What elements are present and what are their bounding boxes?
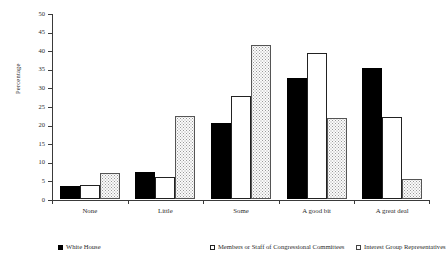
bar: [382, 117, 402, 199]
category-label-0: None: [52, 207, 128, 214]
y-tick-label: 35: [39, 65, 46, 73]
x-axis-line: [52, 200, 430, 201]
x-tick: [52, 200, 53, 204]
y-tick-label: 40: [39, 47, 46, 55]
bar: [231, 96, 251, 199]
bar: [175, 116, 195, 199]
x-tick: [128, 200, 129, 204]
y-tick: 20: [48, 126, 52, 127]
bar: [155, 177, 175, 199]
y-tick-label: 15: [39, 140, 46, 148]
bar: [327, 118, 347, 199]
y-tick: 30: [48, 88, 52, 89]
y-tick-label: 20: [39, 121, 46, 129]
y-tick: 15: [48, 144, 52, 145]
y-axis-title: Percentage: [14, 14, 21, 94]
y-tick: 5: [48, 181, 52, 182]
y-tick-label: 0: [42, 196, 45, 204]
y-axis-line: [52, 14, 53, 201]
bar: [402, 179, 422, 199]
chart-legend: White HouseMembers or Staff of Congressi…: [58, 243, 438, 257]
y-tick: 50: [48, 14, 52, 15]
bar: [287, 78, 307, 199]
legend-swatch-icon: [58, 245, 63, 250]
y-tick: 40: [48, 51, 52, 52]
y-tick-label: 45: [39, 28, 46, 36]
bar: [251, 45, 271, 199]
y-tick: 35: [48, 70, 52, 71]
legend-label: Members or Staff of Congressional Commit…: [218, 243, 344, 251]
category-label-3: A good bit: [279, 207, 355, 214]
bar: [60, 186, 80, 199]
legend-item-2[interactable]: Interest Group Representatives: [356, 243, 446, 251]
category-label-1: Little: [128, 207, 204, 214]
bar: [80, 185, 100, 199]
y-tick-label: 50: [39, 10, 46, 18]
legend-item-1[interactable]: Members or Staff of Congressional Commit…: [210, 243, 344, 251]
x-tick: [354, 200, 355, 204]
legend-swatch-icon: [356, 245, 361, 250]
bar: [100, 173, 120, 199]
bar: [362, 68, 382, 199]
x-tick: [279, 200, 280, 204]
category-label-2: Some: [203, 207, 279, 214]
y-tick-label: 10: [39, 158, 46, 166]
bar: [307, 53, 327, 199]
legend-swatch-icon: [210, 245, 215, 250]
x-tick: [429, 200, 430, 204]
bar: [135, 172, 155, 199]
category-label-4: A great deal: [354, 207, 430, 214]
y-tick: 25: [48, 107, 52, 108]
plot-area: 05101520253035404550: [52, 14, 430, 200]
y-tick: 45: [48, 33, 52, 34]
legend-item-0[interactable]: White House: [58, 243, 101, 251]
legend-label: White House: [66, 243, 101, 251]
legend-label: Interest Group Representatives: [364, 243, 446, 251]
y-tick-label: 30: [39, 84, 46, 92]
y-tick-label: 25: [39, 103, 46, 111]
y-tick-label: 5: [42, 177, 45, 185]
x-tick: [203, 200, 204, 204]
bar: [211, 123, 231, 199]
y-tick: 10: [48, 163, 52, 164]
